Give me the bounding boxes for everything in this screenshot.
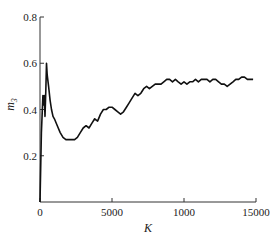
plot-area: 05000100015000 0.20.40.60.8: [23, 11, 270, 218]
x-tick-label: 5000: [101, 206, 124, 218]
x-tick-label: 1000: [173, 206, 196, 218]
x-tick-label: 0: [37, 206, 43, 218]
x-tick-label: 15000: [242, 206, 270, 218]
x-axis-label: K: [143, 221, 153, 235]
y-axis-label: m3: [3, 98, 19, 111]
chart: 05000100015000 0.20.40.60.8 K m3: [0, 0, 278, 238]
y-axis-label-main: m: [3, 102, 17, 111]
x-ticks: 05000100015000: [37, 198, 270, 218]
y-tick-label: 0.4: [23, 104, 37, 116]
y-tick-label: 0.6: [23, 57, 37, 69]
y-tick-label: 0.2: [23, 150, 37, 162]
series-line-m3: [40, 63, 253, 202]
y-axis-label-subscript: 3: [10, 98, 19, 103]
y-tick-label: 0.8: [23, 11, 37, 23]
